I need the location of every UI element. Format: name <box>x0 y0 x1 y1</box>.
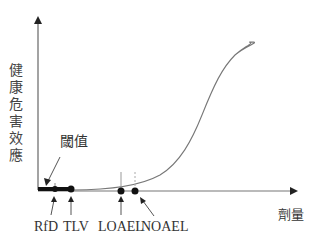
x-axis-arrow-icon <box>290 187 298 195</box>
dose-response-diagram <box>0 0 317 241</box>
y-axis-arrow-icon <box>34 16 42 24</box>
y-axis-label: 健 康 危 害 效 應 <box>8 62 24 164</box>
dose-response-curve <box>72 42 255 190</box>
rfd-point <box>52 186 58 192</box>
y-label-char: 效 <box>8 130 24 147</box>
y-label-char: 害 <box>8 113 24 130</box>
x-axis-label: 劑量 <box>278 204 304 223</box>
threshold-arrowhead-icon <box>44 178 51 186</box>
rfd-arrowhead-icon <box>51 196 57 202</box>
y-label-char: 康 <box>8 79 24 96</box>
loael-label: LOAEL <box>98 219 144 235</box>
noael-arrowhead-icon <box>140 197 146 204</box>
noael-label: NOAEL <box>141 219 188 235</box>
y-label-char: 應 <box>8 147 24 164</box>
tlv-point <box>68 186 75 193</box>
threshold-label: 閾值 <box>60 130 88 150</box>
tlv-arrowhead-icon <box>68 196 74 202</box>
rfd-arrow <box>51 200 54 215</box>
y-label-char: 危 <box>8 96 24 113</box>
noael-arrow <box>143 201 154 216</box>
y-label-char: 健 <box>8 62 24 79</box>
threshold-arrow <box>48 157 60 181</box>
rfd-label: RfD <box>34 219 58 235</box>
loael-arrowhead-icon <box>118 196 124 202</box>
noael-point <box>132 188 139 195</box>
loael-point <box>118 188 125 195</box>
tlv-label: TLV <box>63 219 89 235</box>
